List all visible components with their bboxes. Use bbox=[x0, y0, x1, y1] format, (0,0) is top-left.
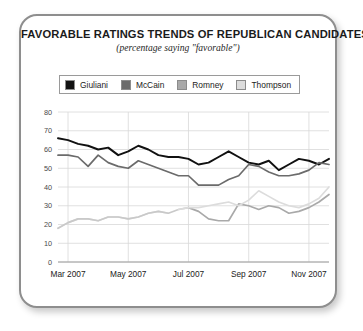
svg-text:50: 50 bbox=[44, 164, 52, 173]
data-series-group bbox=[58, 138, 329, 228]
legend-label: Giuliani bbox=[80, 80, 108, 90]
svg-text:10: 10 bbox=[44, 239, 52, 248]
svg-text:0: 0 bbox=[48, 258, 52, 267]
legend-item-mccain[interactable]: McCain bbox=[121, 80, 170, 90]
svg-text:Mar 2007: Mar 2007 bbox=[51, 269, 86, 279]
legend-item-romney[interactable]: Romney bbox=[177, 80, 229, 90]
legend-item-giuliani[interactable]: Giuliani bbox=[65, 80, 114, 90]
gridlines bbox=[58, 112, 329, 262]
svg-text:Sep 2007: Sep 2007 bbox=[231, 269, 267, 279]
x-axis-tick-labels: Mar 2007May 2007Jul 2007Sep 2007Nov 2007 bbox=[51, 269, 328, 279]
chart-legend: Giuliani McCain Romney Thompson bbox=[59, 75, 300, 94]
legend-item-thompson[interactable]: Thompson bbox=[236, 80, 297, 90]
chart-card: FAVORABLE RATINGS TRENDS OF REPUBLICAN C… bbox=[19, 14, 337, 308]
screenshot-root: FAVORABLE RATINGS TRENDS OF REPUBLICAN C… bbox=[0, 0, 363, 331]
svg-text:80: 80 bbox=[44, 108, 52, 117]
plot-area: 01020304050607080 Mar 2007May 2007Jul 20… bbox=[21, 104, 339, 300]
legend-label: Romney bbox=[192, 80, 223, 90]
y-axis-tick-labels: 01020304050607080 bbox=[44, 108, 52, 267]
svg-text:May 2007: May 2007 bbox=[110, 269, 147, 279]
legend-swatch-icon bbox=[177, 80, 187, 90]
chart-subtitle: (percentage saying "favorable") bbox=[21, 42, 335, 53]
page-title: FAVORABLE RATINGS TRENDS OF REPUBLICAN C… bbox=[21, 28, 335, 40]
legend-swatch-icon bbox=[121, 80, 131, 90]
svg-text:60: 60 bbox=[44, 145, 52, 154]
svg-text:30: 30 bbox=[44, 201, 52, 210]
legend-label: Thompson bbox=[251, 80, 291, 90]
line-chart-svg: 01020304050607080 Mar 2007May 2007Jul 20… bbox=[21, 104, 339, 300]
svg-text:70: 70 bbox=[44, 126, 52, 135]
svg-text:40: 40 bbox=[44, 183, 52, 192]
svg-text:Jul 2007: Jul 2007 bbox=[173, 269, 205, 279]
legend-swatch-icon bbox=[236, 80, 246, 90]
title-block: FAVORABLE RATINGS TRENDS OF REPUBLICAN C… bbox=[21, 28, 335, 53]
svg-text:20: 20 bbox=[44, 220, 52, 229]
legend-swatch-icon bbox=[65, 80, 75, 90]
svg-text:Nov 2007: Nov 2007 bbox=[291, 269, 327, 279]
legend-label: McCain bbox=[136, 80, 164, 90]
